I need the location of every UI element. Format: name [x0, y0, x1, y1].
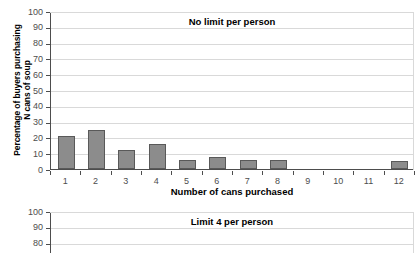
x-tick-mark [50, 171, 51, 175]
gridline [51, 123, 414, 124]
x-tick-label: 12 [394, 176, 404, 186]
gridline [51, 138, 414, 139]
x-axis-title: Number of cans purchased [171, 186, 293, 197]
x-tick-mark [232, 171, 233, 175]
y-tick-mark [46, 228, 50, 229]
gridline [51, 28, 414, 29]
x-tick-mark [171, 171, 172, 175]
x-tick-label: 11 [364, 176, 373, 186]
x-tick-label: 3 [123, 176, 128, 186]
gridline [51, 228, 414, 229]
x-tick-label: 5 [184, 176, 189, 186]
y-tick-label: 0 [0, 166, 43, 175]
plot-area-top [50, 12, 414, 170]
x-tick-label: 1 [63, 176, 68, 186]
y-tick-label: 10 [0, 150, 43, 159]
y-tick-label: 30 [0, 118, 43, 127]
y-tick-label: 40 [0, 102, 43, 111]
x-tick-label: 8 [275, 176, 280, 186]
y-tick-mark [46, 244, 50, 245]
y-tick-label: 50 [0, 87, 43, 96]
y-tick-label: 70 [0, 55, 43, 64]
panel-title-bottom: Limit 4 per person [191, 216, 273, 227]
y-tick-label: 80 [0, 239, 43, 248]
x-tick-label: 9 [305, 176, 310, 186]
x-tick-mark [384, 171, 385, 175]
x-tick-label: 6 [214, 176, 219, 186]
gridline [51, 44, 414, 45]
y-tick-mark [46, 12, 50, 13]
y-tick-mark [46, 123, 50, 124]
gridline [51, 59, 414, 60]
x-tick-label: 4 [154, 176, 159, 186]
x-tick-label: 7 [245, 176, 250, 186]
gridline [51, 12, 414, 13]
y-tick-label: 80 [0, 39, 43, 48]
y-tick-mark [46, 154, 50, 155]
x-tick-mark [323, 171, 324, 175]
x-tick-mark [80, 171, 81, 175]
y-tick-label: 100 [0, 208, 43, 217]
x-tick-label: 10 [333, 176, 343, 186]
y-tick-label: 100 [0, 8, 43, 17]
y-tick-mark [46, 107, 50, 108]
y-tick-mark [46, 75, 50, 76]
gridline [51, 107, 414, 108]
x-tick-mark [414, 171, 415, 175]
bar [391, 161, 408, 169]
y-tick-label: 90 [0, 23, 43, 32]
bar [209, 157, 226, 169]
y-tick-label: 90 [0, 223, 43, 232]
bar [88, 130, 105, 170]
bar [118, 150, 135, 169]
y-tick-mark [46, 212, 50, 213]
y-tick-label: 20 [0, 134, 43, 143]
y-tick-mark [46, 28, 50, 29]
y-tick-mark [46, 59, 50, 60]
bar [58, 136, 75, 169]
x-tick-mark [353, 171, 354, 175]
bar [179, 160, 196, 169]
x-tick-mark [262, 171, 263, 175]
gridline [51, 154, 414, 155]
gridline [51, 244, 414, 245]
bar [240, 160, 257, 169]
y-tick-mark [46, 91, 50, 92]
chart-figure: Percentage of buyers purchasing N cans o… [0, 0, 420, 253]
gridline [51, 75, 414, 76]
gridline [51, 212, 414, 213]
y-tick-mark [46, 44, 50, 45]
bar [149, 144, 166, 169]
panel-title-top: No limit per person [189, 16, 276, 27]
x-tick-mark [141, 171, 142, 175]
bar [270, 160, 287, 169]
chart-panel-no-limit: Percentage of buyers purchasing N cans o… [0, 0, 420, 200]
x-tick-mark [202, 171, 203, 175]
y-tick-mark [46, 138, 50, 139]
y-tick-label: 60 [0, 71, 43, 80]
x-tick-mark [111, 171, 112, 175]
gridline [51, 91, 414, 92]
x-tick-label: 2 [93, 176, 98, 186]
x-tick-mark [293, 171, 294, 175]
